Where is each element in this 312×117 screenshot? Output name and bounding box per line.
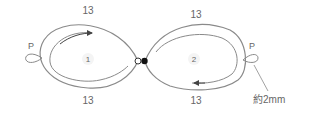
tatting-diagram: 1 13 13 P 2 13 13 P 約2mm: [0, 0, 312, 117]
picot-left-label: P: [28, 41, 34, 51]
ring-2-bottom-count: 13: [190, 95, 202, 106]
picot-left: [26, 54, 42, 62]
ring-1-number: 1: [86, 55, 91, 64]
ring-1: 1 13 13 P: [26, 5, 138, 106]
open-bead-icon: [135, 58, 141, 64]
ring-2-top-count: 13: [190, 9, 202, 20]
picot-leader-line: [254, 65, 268, 91]
filled-bead-icon: [141, 58, 147, 64]
ring-1-bottom-count: 13: [82, 95, 94, 106]
ring-2-number: 2: [192, 55, 197, 64]
picot-size-note: 約2mm: [253, 93, 285, 105]
ring-2: 2 13 13 P: [145, 9, 268, 106]
picot-right-label: P: [249, 41, 255, 51]
ring-1-top-count: 13: [82, 5, 94, 16]
